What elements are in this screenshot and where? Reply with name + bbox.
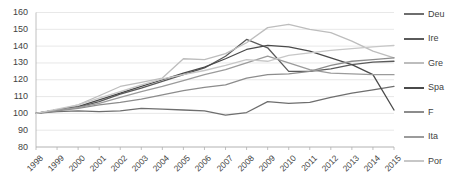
- legend-label-f: F: [428, 108, 434, 117]
- y-tick-label-140: 140: [2, 42, 28, 51]
- legend-swatch-ire: [404, 38, 424, 40]
- legend-item-ita[interactable]: Ita: [404, 131, 438, 143]
- series-line-spa: [36, 45, 394, 113]
- x-axis-ticks: [36, 147, 394, 150]
- data-series-layer: [36, 24, 394, 115]
- legend-swatch-por: [404, 160, 424, 162]
- legend-item-ire[interactable]: Ire: [404, 33, 439, 45]
- y-tick-label-100: 100: [2, 109, 28, 118]
- legend-swatch-gre: [404, 62, 424, 64]
- legend-swatch-f: [404, 111, 424, 113]
- legend-swatch-spa: [404, 87, 424, 89]
- y-tick-label-150: 150: [2, 25, 28, 34]
- legend-item-spa[interactable]: Spa: [404, 82, 444, 94]
- y-tick-label-160: 160: [2, 8, 28, 17]
- y-tick-label-120: 120: [2, 75, 28, 84]
- legend-label-deu: Deu: [428, 10, 445, 19]
- legend-label-spa: Spa: [428, 83, 444, 92]
- legend-label-ita: Ita: [428, 132, 438, 141]
- legend-swatch-deu: [404, 13, 424, 15]
- legend-item-gre[interactable]: Gre: [404, 57, 443, 69]
- series-line-gre: [36, 24, 394, 113]
- legend-label-ire: Ire: [428, 34, 439, 43]
- legend-label-gre: Gre: [428, 59, 443, 68]
- y-tick-label-80: 80: [2, 143, 28, 152]
- legend-item-por[interactable]: Por: [404, 155, 442, 167]
- y-tick-label-130: 130: [2, 58, 28, 67]
- line-chart: 1601501401301201101009080 19981999200020…: [0, 0, 455, 189]
- y-tick-label-110: 110: [2, 92, 28, 101]
- legend-item-deu[interactable]: Deu: [404, 8, 445, 20]
- legend-label-por: Por: [428, 157, 442, 166]
- chart-legend: DeuIreGreSpaFItaPor: [404, 8, 455, 184]
- legend-swatch-ita: [404, 136, 424, 138]
- y-tick-label-90: 90: [2, 126, 28, 135]
- gridlines: [36, 13, 394, 148]
- series-line-ita: [36, 56, 394, 113]
- legend-item-f[interactable]: F: [404, 106, 434, 118]
